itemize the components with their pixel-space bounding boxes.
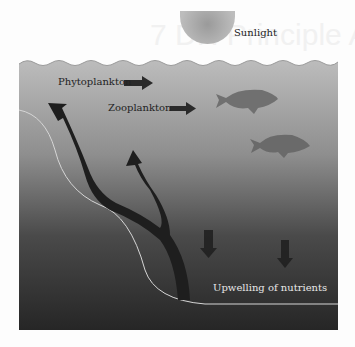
phytoplankton-label: Phytoplankton bbox=[58, 76, 131, 87]
upwelling-label: Upwelling of nutrients bbox=[213, 282, 327, 293]
zooplankton-label: Zooplankton bbox=[108, 102, 172, 113]
sunlight-label: Sunlight bbox=[234, 27, 277, 38]
ocean-diagram bbox=[0, 0, 355, 347]
